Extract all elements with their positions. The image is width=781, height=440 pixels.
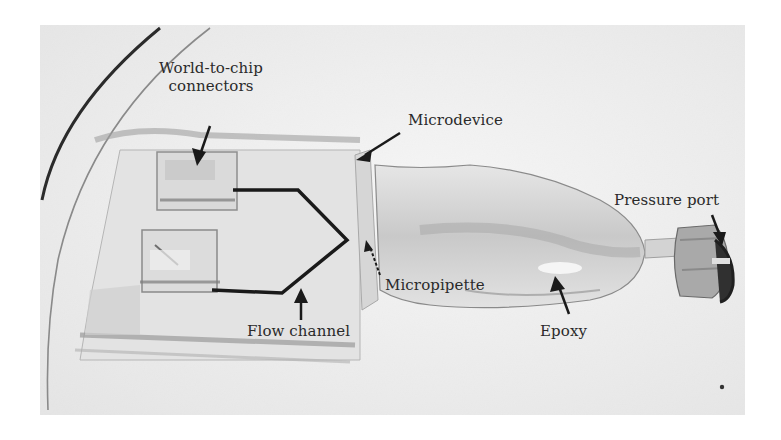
annotated-figure: World-to-chip connectors Microdevice Pre… (0, 0, 781, 440)
label-microdevice: Microdevice (408, 111, 503, 129)
label-epoxy: Epoxy (540, 322, 587, 340)
epoxy-highlight (538, 262, 582, 274)
label-pressure-port: Pressure port (614, 191, 719, 209)
connector-bottom (140, 230, 220, 292)
label-world-to-chip-line2: connectors (136, 77, 286, 95)
label-micropipette: Micropipette (385, 276, 485, 294)
label-flow-channel: Flow channel (247, 322, 350, 340)
label-world-to-chip-connectors: World-to-chip connectors (136, 59, 286, 95)
label-world-to-chip-line1: World-to-chip (136, 59, 286, 77)
